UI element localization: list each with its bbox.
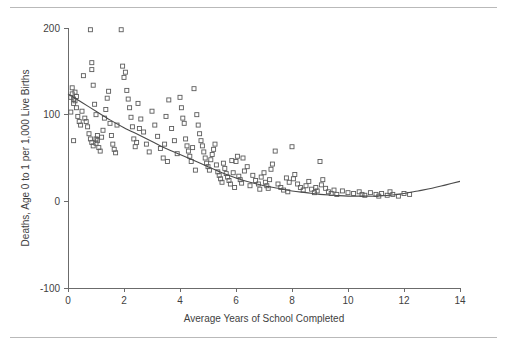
data-point-marker <box>88 28 92 32</box>
data-point-marker <box>86 125 90 129</box>
data-point-marker <box>269 167 273 171</box>
data-point-marker <box>76 114 80 118</box>
data-point-marker <box>273 149 277 153</box>
data-point-marker <box>245 165 249 169</box>
data-point-marker <box>346 191 350 195</box>
data-point-marker <box>165 159 169 163</box>
regression-fit-line <box>68 94 460 196</box>
data-point-marker <box>182 121 186 125</box>
x-tick-label: 2 <box>121 295 127 306</box>
data-point-marker <box>179 106 183 110</box>
data-point-marker <box>321 178 325 182</box>
data-point-marker <box>108 121 112 125</box>
data-point-marker <box>101 128 105 132</box>
data-point-marker <box>368 191 372 195</box>
x-tick-label: 10 <box>342 295 354 306</box>
data-point-marker <box>164 114 168 118</box>
data-point-marker <box>202 150 206 154</box>
data-point-marker <box>74 106 78 110</box>
y-tick-label: 200 <box>43 23 60 34</box>
data-point-marker <box>268 178 272 182</box>
data-point-marker <box>196 123 200 127</box>
data-point-marker <box>270 162 274 166</box>
data-point-marker <box>284 176 288 180</box>
data-point-marker <box>100 135 104 139</box>
data-point-marker <box>184 137 188 141</box>
data-point-marker <box>144 142 148 146</box>
data-point-marker <box>181 116 185 120</box>
data-point-marker <box>133 145 137 149</box>
data-point-marker <box>158 146 162 150</box>
data-point-marker <box>301 188 305 192</box>
data-point-marker <box>248 184 252 188</box>
data-point-marker <box>192 87 196 91</box>
data-point-marker <box>147 150 151 154</box>
data-point-marker <box>70 86 74 90</box>
data-point-marker <box>94 113 98 117</box>
data-point-marker <box>185 144 189 148</box>
data-point-marker <box>319 183 323 187</box>
data-point-marker <box>291 177 295 181</box>
data-point-marker <box>121 64 125 68</box>
x-axis-title: Average Years of School Completed <box>184 313 344 324</box>
data-point-marker <box>186 149 190 153</box>
data-point-marker <box>307 179 311 183</box>
axis-labels-group: Average Years of School CompletedDeaths,… <box>20 70 344 324</box>
y-tick-label: 100 <box>43 109 60 120</box>
x-tick-label: 12 <box>398 295 410 306</box>
x-tick-label: 8 <box>289 295 295 306</box>
data-point-marker <box>172 139 176 143</box>
data-point-marker <box>167 98 171 102</box>
y-tick-label: -100 <box>40 283 60 294</box>
y-axis-title: Deaths, Age 0 to 1 per 1,000 Live Births <box>20 70 31 247</box>
data-point-marker <box>129 115 133 119</box>
data-point-marker <box>290 145 294 149</box>
data-point-marker <box>231 171 235 175</box>
x-tick-label: 6 <box>233 295 239 306</box>
data-point-marker <box>161 156 165 160</box>
data-point-marker <box>318 159 322 163</box>
data-point-marker <box>94 141 98 145</box>
data-point-marker <box>193 168 197 172</box>
data-point-marker <box>156 134 160 138</box>
data-point-marker <box>212 147 216 151</box>
data-point-marker <box>139 117 143 121</box>
data-markers-group <box>69 28 412 198</box>
data-point-marker <box>214 163 218 167</box>
data-point-marker <box>198 132 202 136</box>
data-point-marker <box>170 127 174 131</box>
data-point-marker <box>203 156 207 160</box>
data-point-marker <box>105 96 109 100</box>
data-point-marker <box>104 107 108 111</box>
data-point-marker <box>80 109 84 113</box>
data-point-marker <box>111 142 115 146</box>
data-point-marker <box>230 159 234 163</box>
data-point-marker <box>150 109 154 113</box>
data-point-marker <box>251 173 255 177</box>
y-tick-label: 0 <box>54 196 60 207</box>
data-point-marker <box>259 175 263 179</box>
data-point-marker <box>72 101 76 105</box>
data-point-marker <box>233 185 237 189</box>
data-point-marker <box>178 95 182 99</box>
data-point-marker <box>293 172 297 176</box>
data-point-marker <box>81 74 85 78</box>
data-point-marker <box>199 139 203 143</box>
x-tick-label: 4 <box>177 295 183 306</box>
data-point-marker <box>258 187 262 191</box>
data-point-marker <box>87 132 91 136</box>
data-point-marker <box>221 161 225 165</box>
data-point-marker <box>304 184 308 188</box>
data-point-marker <box>137 127 141 131</box>
data-point-marker <box>200 144 204 148</box>
data-point-marker <box>380 192 384 196</box>
data-point-marker <box>209 158 213 162</box>
data-point-marker <box>287 180 291 184</box>
data-point-marker <box>119 28 123 32</box>
data-point-marker <box>91 83 95 87</box>
data-point-marker <box>107 89 111 93</box>
data-point-marker <box>210 153 214 157</box>
data-point-marker <box>136 101 140 105</box>
data-point-marker <box>235 154 239 158</box>
data-point-marker <box>69 110 73 114</box>
